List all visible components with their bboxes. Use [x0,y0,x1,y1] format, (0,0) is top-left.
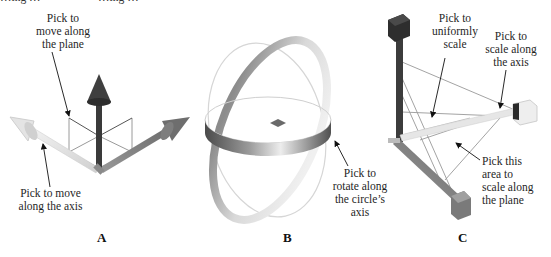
label-move-plane: Pick to move along the plane [28,12,98,51]
scale-axis-z[interactable] [393,138,471,220]
gizmo-figure: …ing … …ing … Pick to move along the pla… [0,0,551,257]
leader-ring-b [335,141,348,166]
translate-axis-z[interactable] [99,117,190,173]
label-move-axis: Pick to move along the axis [8,187,93,213]
label-scale-axis: Pick to scale along the axis [476,30,546,69]
translate-axis-x[interactable] [10,117,99,173]
panel-letter-b: B [283,230,292,246]
clipped-caption: …ing … …ing … [0,0,139,3]
rotate-center [270,119,286,127]
leader-uniform-c [432,58,445,117]
leader-axis-a [43,144,50,187]
translate-axis-y[interactable] [87,74,111,170]
translate-gizmo [10,52,190,187]
translate-origin [93,163,104,174]
leader-axis-c [500,70,506,108]
label-rotate-circle: Pick to rotate along the circle’s axis [325,167,395,219]
scale-origin[interactable] [388,138,400,143]
scale-axis-y[interactable] [388,14,410,142]
label-scale-plane: Pick this area to scale along the plane [482,155,551,207]
panel-letter-a: A [97,230,106,246]
panel-letter-c: C [458,230,467,246]
leader-plane-a [52,52,69,116]
leader-plane-c [456,143,480,160]
